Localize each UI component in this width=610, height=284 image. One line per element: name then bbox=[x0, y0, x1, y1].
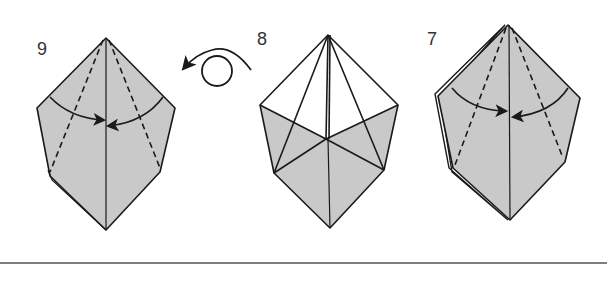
step-8: 8 bbox=[257, 29, 398, 228]
step-7: 7 bbox=[427, 25, 580, 220]
step-number-7: 7 bbox=[427, 29, 437, 49]
step-number-9: 9 bbox=[37, 39, 47, 59]
step-number-8: 8 bbox=[257, 29, 267, 49]
origami-diagram: 9 8 7 bbox=[0, 0, 610, 284]
step-9: 9 bbox=[37, 38, 175, 230]
turn-over-icon bbox=[184, 49, 251, 86]
